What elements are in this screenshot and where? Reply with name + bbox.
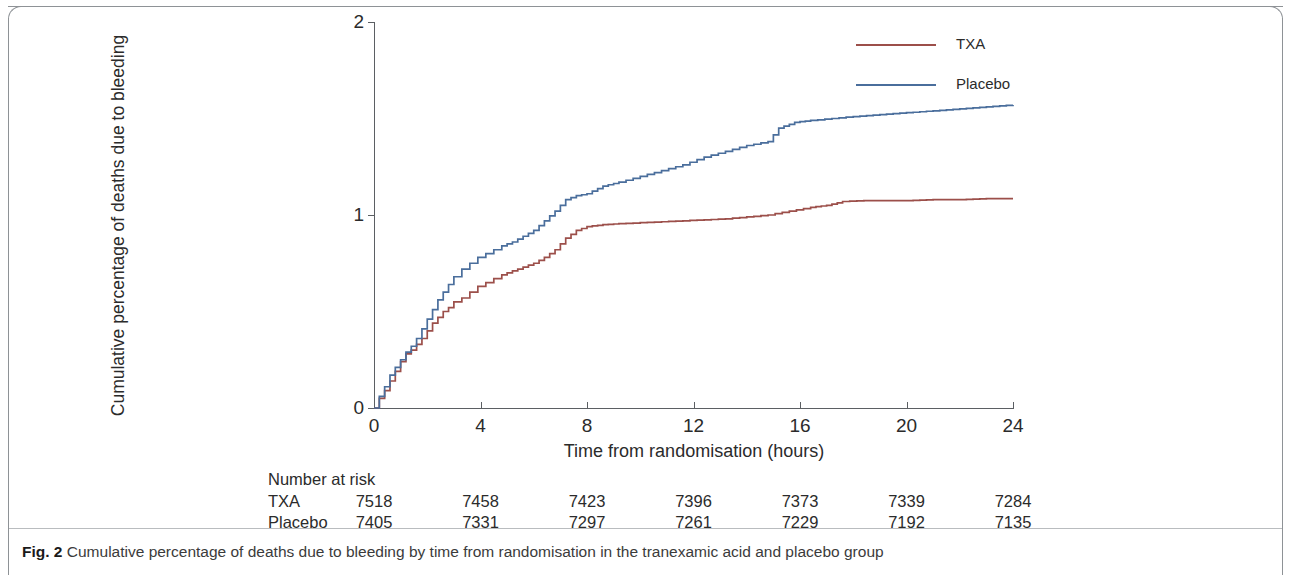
risk-value: 7518 [356, 492, 393, 511]
x-axis-title: Time from randomisation (hours) [374, 441, 1014, 462]
risk-value: 7396 [675, 492, 712, 511]
legend-swatch-placebo [856, 84, 936, 86]
chart-legend: TXAPlacebo [856, 30, 1086, 110]
chart-curves [0, 0, 1291, 575]
number-at-risk-title: Number at risk [268, 470, 375, 489]
risk-value: 7135 [995, 513, 1032, 532]
legend-item-txa: TXA [856, 30, 1086, 70]
figure-caption: Fig. 2 Cumulative percentage of deaths d… [22, 542, 1262, 562]
chart-series-txa [374, 199, 1013, 408]
risk-value: 7284 [995, 492, 1032, 511]
figure-caption-label: Fig. 2 [22, 543, 62, 560]
chart-series-placebo [374, 105, 1013, 408]
caption-divider [9, 528, 1282, 529]
risk-value: 7423 [569, 492, 606, 511]
figure-page: 04812162024 012 Time from randomisation … [0, 0, 1291, 575]
table-row: Placebo7405733172977261722971927135 [268, 513, 1058, 533]
risk-value: 7458 [462, 492, 499, 511]
legend-swatch-txa [856, 44, 936, 46]
risk-value: 7405 [356, 513, 393, 532]
risk-value: 7297 [569, 513, 606, 532]
legend-label: TXA [956, 35, 985, 52]
risk-value: 7261 [675, 513, 712, 532]
risk-value: 7339 [888, 492, 925, 511]
table-row: TXA7518745874237396737373397284 [268, 492, 1058, 512]
legend-label: Placebo [956, 75, 1010, 92]
y-axis-title: Cumulative percentage of deaths due to b… [108, 26, 129, 426]
chart-plot-area: 04812162024 012 Time from randomisation … [0, 0, 1291, 575]
risk-value: 7331 [462, 513, 499, 532]
risk-row-label: TXA [268, 492, 300, 511]
figure-caption-text: Cumulative percentage of deaths due to b… [67, 543, 884, 560]
risk-value: 7229 [782, 513, 819, 532]
risk-row-label: Placebo [268, 513, 328, 532]
risk-value: 7192 [888, 513, 925, 532]
risk-value: 7373 [782, 492, 819, 511]
legend-item-placebo: Placebo [856, 70, 1086, 110]
